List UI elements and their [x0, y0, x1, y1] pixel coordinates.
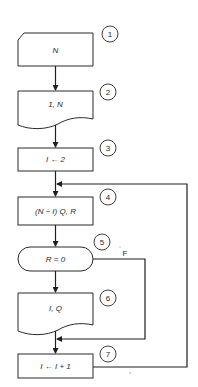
svg-text:2: 2 [106, 88, 111, 97]
step-7-process: I ← I + 1 [18, 354, 93, 378]
speck [119, 246, 120, 247]
step-4-process: (N ÷ I) Q, R [18, 197, 93, 225]
speck [129, 372, 130, 373]
step-1-card-input: N [18, 33, 93, 66]
step-5-decision: R = 0 [18, 247, 93, 271]
svg-text:1: 1 [108, 30, 113, 39]
step-5-number-badge: 5 [94, 234, 110, 250]
step-3-number-badge: 3 [100, 140, 116, 156]
step-1-label: N [53, 46, 59, 55]
step-7-label: I ← I + 1 [40, 362, 70, 371]
svg-text:5: 5 [100, 238, 105, 247]
flowchart: N 1 1, N 2 I ← 2 3 (N ÷ I) Q, R 4 R [0, 0, 198, 387]
svg-text:6: 6 [106, 294, 111, 303]
step-2-document-output: 1, N [18, 91, 93, 129]
step-6-number-badge: 6 [100, 290, 116, 306]
step-3-process: I ← 2 [18, 148, 93, 171]
step-2-number-badge: 2 [100, 84, 116, 100]
step-2-label: 1, N [48, 100, 63, 109]
step-3-label: I ← 2 [46, 155, 66, 164]
svg-text:3: 3 [106, 144, 111, 153]
step-4-label: (N ÷ I) Q, R [35, 207, 76, 216]
step-7-number-badge: 7 [100, 346, 116, 362]
svg-text:4: 4 [106, 193, 111, 202]
step-4-number-badge: 4 [100, 189, 116, 205]
svg-text:7: 7 [106, 350, 111, 359]
step-1-number-badge: 1 [102, 26, 118, 42]
step-5-label: R = 0 [46, 255, 66, 264]
false-branch-label: F [123, 249, 128, 258]
step-6-label: I, Q [49, 304, 62, 313]
step-6-document-output: I, Q [18, 293, 93, 335]
